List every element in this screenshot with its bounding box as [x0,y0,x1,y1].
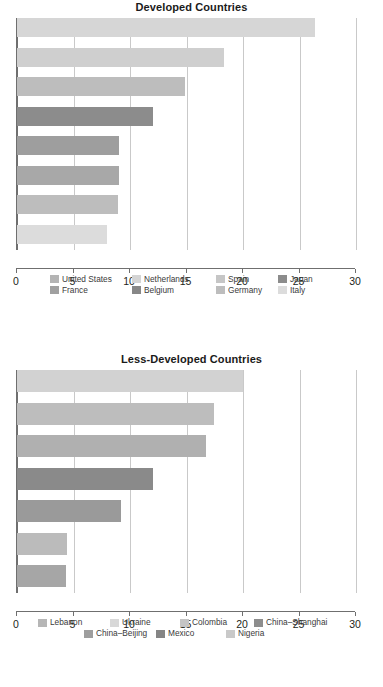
legend-item-lebanon[interactable]: Lebanon [38,617,110,628]
bar-united-states[interactable] [17,18,315,37]
legend-swatch-icon [132,286,141,294]
bar-row [17,77,356,96]
legend-swatch-icon [38,619,47,627]
bar-row [17,48,356,67]
legend-label: France [62,285,88,296]
gridline-30 [356,370,357,593]
legend-label: Italy [290,285,305,296]
plot-area-less-developed: 051015202530 [0,370,383,593]
bar-row [17,225,356,244]
legend-swatch-icon [180,619,189,627]
bar-row [17,565,356,587]
legend-swatch-icon [278,286,287,294]
legend-item-spain[interactable]: Spain [216,274,278,285]
legend-swatch-icon [254,619,263,627]
chart-panel-developed: Developed Countries 051015202530 United … [0,0,383,330]
legend-item-netherlands[interactable]: Netherlands [132,274,216,285]
bar-mexico[interactable] [17,533,67,555]
legend-label: Ukraine [122,617,151,628]
bar-row [17,107,356,126]
legend-item-nigeria[interactable]: Nigeria [226,628,300,639]
plot-canvas-less-developed [16,370,356,593]
tick-5 [73,269,74,273]
bar-italy[interactable] [17,225,107,244]
bar-belgium[interactable] [17,166,119,185]
legend-label: Germany [228,285,262,296]
gridline-30 [356,18,357,250]
legend-swatch-icon [226,630,235,638]
legend-swatch-icon [278,275,287,283]
legend-label: Netherlands [144,274,189,285]
legend-item-ukraine[interactable]: Ukraine [110,617,180,628]
bar-row [17,500,356,522]
bar-row [17,370,356,392]
legend-label: United States [62,274,112,285]
legend-label: Mexico [168,628,194,639]
tick-5 [73,612,74,616]
footer-blank-strip [0,676,383,687]
legend-item-japan[interactable]: Japan [278,274,334,285]
x-axis-ticks-less-developed [16,612,355,616]
legend-item-china-shanghai[interactable]: China–Shanghai [254,617,346,628]
bar-germany[interactable] [17,195,118,214]
tick-0 [16,269,17,273]
legend-label: Lebanon [50,617,82,628]
bar-row [17,166,356,185]
legend-item-colombia[interactable]: Colombia [180,617,254,628]
legend-swatch-icon [84,630,93,638]
bar-row [17,18,356,37]
legend-label: China–Shanghai [266,617,327,628]
page-title-less-developed: Less-Developed Countries [0,352,383,366]
legend-swatch-icon [156,630,165,638]
legend-label: Nigeria [238,628,264,639]
legend-item-france[interactable]: France [50,285,132,296]
tick-0 [16,612,17,616]
chart-panel-less-developed: Less-Developed Countries 051015202530 Le… [0,352,383,687]
legend-swatch-icon [216,275,225,283]
bar-china-beijing[interactable] [17,500,121,522]
legend-swatch-icon [50,275,59,283]
legend-label: Colombia [192,617,227,628]
bar-france[interactable] [17,136,119,155]
tick-30 [355,269,356,273]
legend-item-united-states[interactable]: United States [50,274,132,285]
legend-item-germany[interactable]: Germany [216,285,278,296]
legend-label: Spain [228,274,249,285]
bar-series-less-developed [17,370,356,587]
tick-25 [299,612,300,616]
bar-row [17,435,356,457]
tick-20 [242,612,243,616]
tick-15 [186,612,187,616]
legend-row: China–BeijingMexicoNigeria [0,628,383,639]
bar-nigeria[interactable] [17,565,66,587]
bar-row [17,468,356,490]
bar-row [17,533,356,555]
legend-swatch-icon [132,275,141,283]
legend-swatch-icon [110,619,119,627]
bar-spain[interactable] [17,77,185,96]
bar-row [17,195,356,214]
legend-item-belgium[interactable]: Belgium [132,285,216,296]
legend-less-developed: LebanonUkraineColombiaChina–ShanghaiChin… [0,617,383,639]
legend-developed: United StatesNetherlandsSpainJapanFrance… [0,274,383,296]
tick-25 [299,269,300,273]
legend-label: Belgium [144,285,174,296]
bar-netherlands[interactable] [17,48,224,67]
bar-row [17,136,356,155]
bar-ukraine[interactable] [17,403,214,425]
bar-series-developed [17,18,356,244]
tick-15 [186,269,187,273]
legend-item-china-beijing[interactable]: China–Beijing [84,628,156,639]
bar-lebanon[interactable] [17,370,243,392]
tick-30 [355,612,356,616]
bar-china-shanghai[interactable] [17,468,153,490]
legend-row: FranceBelgiumGermanyItaly [0,285,383,296]
legend-swatch-icon [50,286,59,294]
tick-10 [129,269,130,273]
page-title-developed: Developed Countries [0,0,383,14]
legend-swatch-icon [216,286,225,294]
bar-japan[interactable] [17,107,153,126]
legend-item-mexico[interactable]: Mexico [156,628,226,639]
bar-colombia[interactable] [17,435,206,457]
legend-item-italy[interactable]: Italy [278,285,334,296]
